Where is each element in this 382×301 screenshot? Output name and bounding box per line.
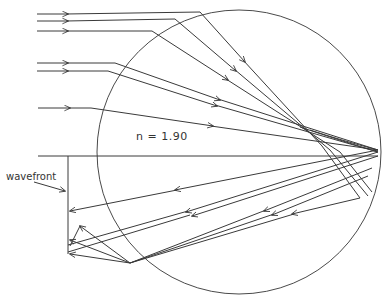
refractive-index-label: n = 1.90	[136, 130, 188, 143]
incoming-rays	[37, 12, 200, 108]
sphere-ray-diagram	[0, 0, 382, 301]
wavefront-pointer-arrow	[34, 182, 65, 191]
wavefront-label: wavefront	[6, 171, 56, 182]
sphere-outline	[97, 10, 381, 294]
reflected-rays	[68, 150, 378, 263]
